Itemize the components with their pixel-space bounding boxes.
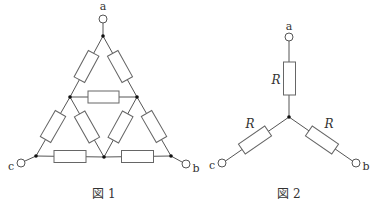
- resistor-c-star: [238, 126, 271, 154]
- resistor-label-b: R: [323, 117, 333, 131]
- terminal-a-label-fig2: a: [286, 20, 293, 33]
- diagram-stage: a c b: [0, 0, 372, 211]
- resistor-bottomcenter-b: [122, 151, 154, 163]
- node-bottom-left: [34, 154, 38, 158]
- node-bottom-right: [169, 154, 173, 158]
- terminal-a-fig2: [285, 33, 293, 41]
- resistor-a-midleft: [74, 50, 99, 82]
- node-mid-right: [135, 95, 139, 99]
- resistor-a-star: [284, 62, 296, 95]
- terminal-c-fig2: [218, 159, 226, 167]
- node-mid-left: [68, 95, 72, 99]
- figure-2: a R c R b R 図 2: [209, 20, 370, 201]
- terminal-c-fig1: [17, 159, 25, 167]
- resistor-midleft-bottomcenter: [74, 111, 99, 143]
- figure-1-caption: 図 1: [92, 187, 115, 201]
- node-star-center: [287, 115, 291, 119]
- resistor-midleft-c: [40, 111, 65, 143]
- node-bottom-center: [102, 155, 106, 159]
- resistor-midright-bottomcenter: [108, 111, 133, 143]
- terminal-a-fig1: [99, 15, 107, 23]
- terminal-b-fig1: [182, 160, 190, 168]
- terminal-b-fig2: [352, 159, 360, 167]
- terminal-a-label-fig1: a: [100, 0, 107, 13]
- terminal-b-label-fig2: b: [362, 160, 369, 173]
- figure-2-caption: 図 2: [277, 187, 300, 201]
- node-top: [101, 34, 105, 38]
- resistor-a-midright: [107, 50, 132, 82]
- terminal-c-label-fig1: c: [8, 160, 14, 173]
- resistor-c-bottomcenter: [54, 151, 86, 163]
- resistor-b-star: [305, 126, 338, 154]
- resistor-midleft-midright: [88, 91, 119, 103]
- figure-1: a c b: [8, 0, 200, 201]
- terminal-c-label-fig2: c: [209, 159, 215, 172]
- terminal-b-label-fig1: b: [192, 162, 199, 175]
- resistor-label-c: R: [244, 117, 254, 131]
- resistor-label-a: R: [270, 73, 280, 87]
- resistor-midright-b: [141, 111, 166, 143]
